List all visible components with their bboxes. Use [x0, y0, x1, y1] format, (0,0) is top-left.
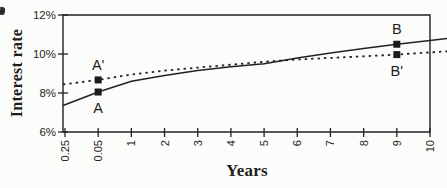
marker-A-prime [95, 76, 102, 83]
marker-B-prime [393, 51, 400, 58]
y-tick-label: 8% [39, 87, 56, 99]
x-tick-label: 5 [258, 140, 270, 146]
x-tick-label: 9 [391, 140, 403, 146]
marker-label-A: A [93, 100, 103, 116]
y-tick-label: 12% [33, 9, 56, 21]
x-tick-label: 4 [225, 140, 237, 146]
marker-label-A-prime: A' [92, 57, 105, 73]
marker-A [95, 89, 102, 96]
y-tick-label: 10% [33, 48, 56, 60]
x-tick-label: 0.05 [92, 140, 104, 161]
x-tick-label: 3 [192, 140, 204, 146]
x-tick-label: 0.25 [59, 140, 71, 161]
y-tick-label: 6% [39, 126, 56, 138]
x-tick-label: 7 [324, 140, 336, 146]
yield-curve-figure: Interest rate 0.250.05123456789106%8%10%… [0, 0, 447, 188]
x-tick-label: 6 [291, 140, 303, 146]
x-tick-label: 10 [424, 140, 436, 152]
marker-label-B-prime: B' [391, 63, 404, 79]
dashed-curve [63, 51, 447, 84]
plot-border [63, 15, 430, 132]
marker-B [393, 41, 400, 48]
x-tick-label: 8 [358, 140, 370, 146]
x-tick-label: 2 [159, 140, 171, 146]
solid-curve [63, 38, 447, 105]
chart-canvas: 0.250.05123456789106%8%10%12%AA'BB' [0, 0, 447, 188]
marker-label-B: B [392, 21, 402, 37]
x-tick-label: 1 [125, 140, 137, 146]
x-axis-title: Years [180, 161, 314, 181]
